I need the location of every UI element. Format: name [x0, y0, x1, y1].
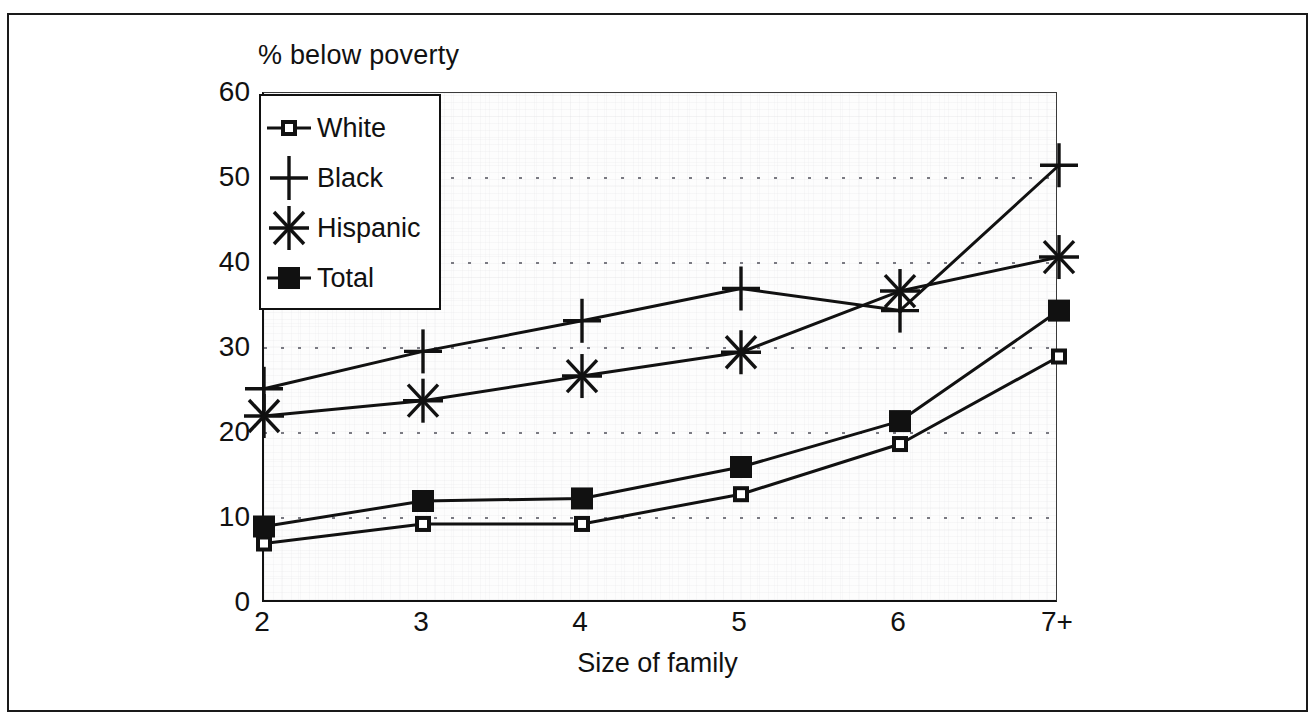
- data-point-total-6: [889, 410, 911, 432]
- data-point-hispanic-7+: [1039, 235, 1079, 279]
- legend-label: Black: [317, 163, 383, 194]
- data-point-black-3: [404, 329, 442, 373]
- legend-marker-hispanic-icon: [261, 204, 317, 252]
- x-tick-label-2: 2: [254, 606, 270, 638]
- data-point-hispanic-6: [880, 269, 920, 313]
- series-line-total: [264, 311, 1059, 527]
- y-tick-label: 50: [219, 161, 250, 193]
- x-tick-label-5: 5: [731, 606, 747, 638]
- data-point-total-5: [730, 456, 752, 478]
- data-point-white-5: [735, 488, 747, 500]
- data-point-total-7+: [1048, 300, 1070, 322]
- data-point-hispanic-5: [721, 330, 761, 374]
- legend-item-hispanic[interactable]: Hispanic: [261, 204, 439, 252]
- data-point-white-3: [417, 518, 429, 530]
- data-point-total-2: [253, 516, 275, 538]
- data-point-black-5: [722, 267, 760, 311]
- legend-item-black[interactable]: Black: [261, 154, 439, 202]
- y-tick-label: 20: [219, 416, 250, 448]
- legend-label: Hispanic: [317, 213, 421, 244]
- y-tick-label: 60: [219, 76, 250, 108]
- y-axis-tick-labels: 0102030405060: [186, 92, 250, 602]
- chart-title: % below poverty: [258, 40, 459, 71]
- legend-label: Total: [317, 263, 374, 294]
- data-point-black-4: [563, 299, 601, 343]
- x-axis-tick-labels: 234567+: [262, 606, 1057, 646]
- data-point-white-7+: [1053, 351, 1065, 363]
- x-axis-title: Size of family: [0, 648, 1315, 679]
- legend-item-total[interactable]: Total: [261, 254, 439, 302]
- legend-label: White: [317, 113, 386, 144]
- data-point-white-6: [894, 438, 906, 450]
- legend-marker-white-icon: [261, 104, 317, 152]
- y-tick-label: 10: [219, 501, 250, 533]
- y-tick-label: 0: [234, 586, 250, 618]
- data-point-total-4: [571, 487, 593, 509]
- y-tick-label: 40: [219, 246, 250, 278]
- data-point-white-4: [576, 518, 588, 530]
- x-tick-label-4: 4: [572, 606, 588, 638]
- figure: % below poverty 0102030405060 WhiteBlack…: [0, 0, 1315, 726]
- y-tick-label: 30: [219, 331, 250, 363]
- legend-marker-total-icon: [261, 254, 317, 302]
- legend-item-white[interactable]: White: [261, 104, 439, 152]
- legend: WhiteBlackHispanicTotal: [259, 94, 441, 310]
- data-point-total-3: [412, 490, 434, 512]
- data-point-white-2: [258, 538, 270, 550]
- data-point-hispanic-4: [562, 354, 602, 398]
- data-point-hispanic-3: [403, 379, 443, 423]
- data-point-hispanic-2: [244, 394, 284, 438]
- x-tick-label-6: 6: [890, 606, 906, 638]
- x-tick-label-7+: 7+: [1041, 606, 1073, 638]
- x-tick-label-3: 3: [413, 606, 429, 638]
- series-line-white: [264, 357, 1059, 544]
- legend-marker-black-icon: [261, 154, 317, 202]
